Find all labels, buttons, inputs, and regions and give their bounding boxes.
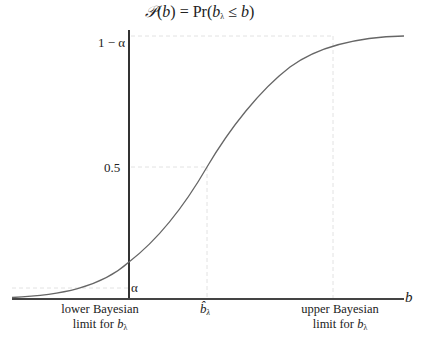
cdf-curve bbox=[12, 36, 404, 298]
cdf-plot bbox=[0, 0, 424, 346]
y-tick-1-alpha: 1 − α bbox=[98, 36, 125, 49]
bhat-label: b̂λ bbox=[200, 302, 210, 317]
y-tick-alpha: α bbox=[131, 281, 138, 294]
upper-limit-label: upper Bayesian limit for bλ bbox=[280, 302, 400, 335]
lower-limit-label: lower Bayesian limit for bλ bbox=[30, 302, 170, 335]
chart-title: 𝒫(b) = Pr(bλ ≤ b) bbox=[145, 4, 254, 21]
x-axis-label: b bbox=[405, 290, 413, 305]
y-tick-0.5: 0.5 bbox=[104, 161, 120, 174]
